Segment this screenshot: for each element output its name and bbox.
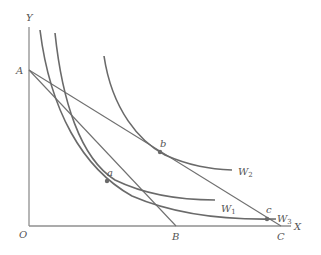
indifference-curve-W1 bbox=[55, 33, 215, 200]
origin-label: O bbox=[19, 229, 27, 240]
curve-label-W2: W2 bbox=[238, 166, 253, 179]
curve-label-W1: W1 bbox=[221, 203, 236, 216]
point-label-c: c bbox=[266, 204, 272, 215]
x-axis-label: X bbox=[293, 221, 302, 232]
point-label-a: a bbox=[107, 167, 113, 178]
intercept-label-C: C bbox=[277, 231, 285, 242]
point-b bbox=[158, 150, 162, 154]
indifference-curve-W2 bbox=[104, 56, 232, 170]
point-label-b: b bbox=[160, 138, 166, 149]
point-a bbox=[105, 179, 109, 183]
curve-label-W3: W3 bbox=[277, 213, 292, 226]
point-c bbox=[265, 217, 269, 221]
indifference-curve-diagram: Y X O A B C a b c W2 W1 W3 bbox=[0, 0, 321, 255]
intercept-label-B: B bbox=[171, 231, 179, 242]
y-axis-label: Y bbox=[26, 12, 34, 23]
intercept-label-A: A bbox=[15, 65, 23, 76]
